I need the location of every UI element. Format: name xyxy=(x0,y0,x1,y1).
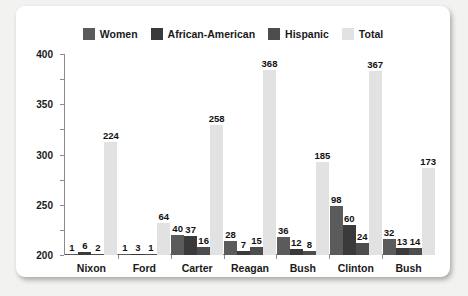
bar-value-label: 28 xyxy=(225,230,236,240)
bar-set: 36128185 xyxy=(276,54,329,255)
bar-hispanic[interactable] xyxy=(197,247,210,255)
legend-item-label: African-American xyxy=(168,28,256,40)
legend-item-hispanic[interactable]: Hispanic xyxy=(268,28,329,40)
x-axis-label-bush-6: Bush xyxy=(382,262,435,274)
legend-item-label: Women xyxy=(100,28,138,40)
x-axis-label-carter-2: Carter xyxy=(171,262,224,274)
y-tick-mark: 300 xyxy=(60,104,64,105)
y-tick-label: 300 xyxy=(36,149,53,160)
bar-value-label: 224 xyxy=(103,131,119,141)
x-axis-labels: NixonFordCarterReaganBushClintonBush xyxy=(65,262,435,274)
bar-value-label: 1 xyxy=(122,243,127,253)
bar-value-label: 185 xyxy=(314,151,330,161)
bar-value-label: 1 xyxy=(148,243,153,253)
legend-item-total[interactable]: Total xyxy=(342,28,383,40)
bar-column: 6 xyxy=(78,54,91,255)
bar-column: 37 xyxy=(184,54,197,255)
bar-total[interactable] xyxy=(263,70,276,255)
bar-women[interactable] xyxy=(383,239,396,255)
bar-african-american[interactable] xyxy=(396,248,409,255)
x-tick-mark xyxy=(118,255,119,259)
legend-item-label: Total xyxy=(359,28,383,40)
x-tick-mark xyxy=(382,255,383,259)
y-tick-mark: 50 xyxy=(60,230,64,231)
bar-column: 40 xyxy=(171,54,184,255)
bar-total[interactable] xyxy=(210,125,223,255)
y-tick-mark: 350 xyxy=(60,79,64,80)
bar-value-label: 14 xyxy=(410,237,421,247)
bar-column: 185 xyxy=(316,54,329,255)
legend-swatch-icon xyxy=(151,28,163,40)
bar-african-american[interactable] xyxy=(131,254,144,256)
bar-women[interactable] xyxy=(118,254,131,256)
bar-value-label: 98 xyxy=(331,195,342,205)
y-tick-mark: 250 xyxy=(60,129,64,130)
bar-column: 28 xyxy=(224,54,237,255)
bar-women[interactable] xyxy=(224,241,237,255)
bar-column: 15 xyxy=(250,54,263,255)
bar-african-american[interactable] xyxy=(184,236,197,255)
bar-group-carter-2: 403716258 xyxy=(171,54,224,255)
bar-hispanic[interactable] xyxy=(250,247,263,255)
bar-total[interactable] xyxy=(104,142,117,255)
bar-column: 258 xyxy=(210,54,223,255)
bar-column: 14 xyxy=(409,54,422,255)
bar-column: 1 xyxy=(118,54,131,255)
bar-groups: 1622241316440371625828715368361281859860… xyxy=(65,54,435,255)
bar-column: 173 xyxy=(422,54,435,255)
bar-total[interactable] xyxy=(422,168,435,255)
bar-women[interactable] xyxy=(330,206,343,255)
bar-group-bush-6: 321314173 xyxy=(382,54,435,255)
legend-item-african-american[interactable]: African-American xyxy=(151,28,256,40)
bar-set: 13164 xyxy=(118,54,171,255)
bar-column: 12 xyxy=(290,54,303,255)
legend-swatch-icon xyxy=(83,28,95,40)
bar-group-clinton-5: 986024367 xyxy=(329,54,382,255)
bar-value-label: 37 xyxy=(185,225,196,235)
bar-hispanic[interactable] xyxy=(303,251,316,255)
x-axis-label-clinton-5: Clinton xyxy=(329,262,382,274)
bar-african-american[interactable] xyxy=(290,249,303,255)
bar-value-label: 6 xyxy=(82,241,87,251)
bar-women[interactable] xyxy=(65,254,78,256)
bar-total[interactable] xyxy=(157,223,170,255)
legend-item-women[interactable]: Women xyxy=(83,28,138,40)
x-tick-mark xyxy=(276,255,277,259)
bar-african-american[interactable] xyxy=(78,252,91,255)
bar-column: 32 xyxy=(383,54,396,255)
bar-column: 2 xyxy=(91,54,104,255)
bar-total[interactable] xyxy=(369,71,382,255)
x-tick-mark xyxy=(224,255,225,259)
bar-african-american[interactable] xyxy=(237,251,250,255)
y-tick-mark: 100 xyxy=(60,205,64,206)
bar-value-label: 15 xyxy=(251,236,262,246)
bar-column: 1 xyxy=(65,54,78,255)
bar-hispanic[interactable] xyxy=(91,254,104,256)
plot-area: 400350300250200150100500 162224131644037… xyxy=(64,54,435,255)
bar-value-label: 2 xyxy=(95,243,100,253)
bar-hispanic[interactable] xyxy=(356,243,369,255)
y-tick-label: 200 xyxy=(36,250,53,261)
bar-set: 403716258 xyxy=(171,54,224,255)
bar-set: 28715368 xyxy=(224,54,277,255)
bar-value-label: 7 xyxy=(241,240,246,250)
y-tick-label: 400 xyxy=(36,49,53,60)
y-tick-mark: 0 xyxy=(60,255,64,256)
bar-women[interactable] xyxy=(277,237,290,255)
bar-value-label: 8 xyxy=(307,240,312,250)
bar-column: 36 xyxy=(277,54,290,255)
legend-swatch-icon xyxy=(268,28,280,40)
bar-value-label: 3 xyxy=(135,243,140,253)
chart-legend: WomenAfrican-AmericanHispanicTotal xyxy=(16,28,450,40)
bar-total[interactable] xyxy=(316,162,329,255)
bar-group-reagan-3: 28715368 xyxy=(224,54,277,255)
bar-hispanic[interactable] xyxy=(409,248,422,255)
bar-african-american[interactable] xyxy=(343,225,356,255)
y-tick-mark: 400 xyxy=(60,54,64,55)
bar-value-label: 368 xyxy=(262,59,278,69)
bar-women[interactable] xyxy=(171,235,184,255)
bar-hispanic[interactable] xyxy=(144,254,157,256)
bar-group-ford-1: 13164 xyxy=(118,54,171,255)
bar-group-bush-4: 36128185 xyxy=(276,54,329,255)
bar-column: 367 xyxy=(369,54,382,255)
